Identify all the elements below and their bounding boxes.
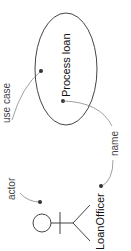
actor-name: LoanOfficer <box>94 193 106 250</box>
use-case-leader-line <box>12 71 41 120</box>
actor-dot <box>38 200 42 204</box>
name-leader-line-bottom <box>102 160 113 186</box>
use-case-diagram: Process loan use case name actor LoanOff… <box>0 0 131 251</box>
name-dot-actor <box>99 184 103 188</box>
use-case-dot <box>39 69 43 73</box>
use-case-annotation: use case <box>1 83 12 123</box>
name-annotation: name <box>109 131 120 156</box>
actor-annotation: actor <box>6 177 17 200</box>
actor-leader-line <box>20 193 40 202</box>
actor-stick-figure-icon <box>33 205 90 241</box>
name-leader-line-top <box>63 101 112 126</box>
use-case-name: Process loan <box>60 33 72 97</box>
